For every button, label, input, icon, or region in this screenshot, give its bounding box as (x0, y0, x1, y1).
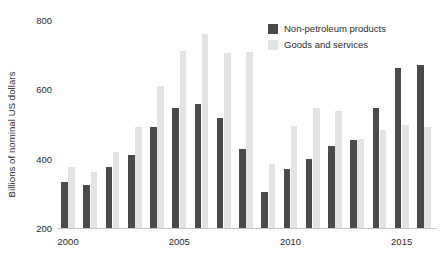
bar-2005-non-petroleum-products (172, 108, 179, 228)
bar-2014-goods-and-services (380, 130, 387, 228)
bar-2007-non-petroleum-products (217, 118, 224, 228)
bar-2000-goods-and-services (68, 167, 75, 228)
x-tick-label-2005: 2005 (169, 236, 190, 247)
x-tick-label-2010: 2010 (280, 236, 301, 247)
bar-2010-goods-and-services (291, 126, 298, 228)
legend-swatch-icon (268, 24, 278, 34)
bar-2009-non-petroleum-products (261, 192, 268, 228)
y-tick-label-200: 200 (22, 223, 52, 234)
legend-swatch-icon (268, 40, 278, 50)
x-axis-line (57, 228, 437, 229)
bar-2000-non-petroleum-products (61, 182, 68, 228)
x-tick-label-2000: 2000 (58, 236, 79, 247)
bar-2008-non-petroleum-products (239, 149, 246, 228)
bar-2011-goods-and-services (313, 108, 320, 228)
bar-2013-non-petroleum-products (350, 140, 357, 228)
bar-2004-goods-and-services (157, 86, 164, 228)
bar-2012-goods-and-services (335, 111, 342, 228)
bar-2005-goods-and-services (180, 51, 187, 228)
bar-2009-goods-and-services (269, 164, 276, 228)
y-axis-ticks: 200400600800 (14, 0, 52, 269)
bar-2010-non-petroleum-products (284, 169, 291, 228)
legend-label: Non-petroleum products (284, 23, 386, 34)
bar-2013-goods-and-services (357, 139, 364, 228)
bar-2014-non-petroleum-products (373, 108, 380, 228)
bar-2003-non-petroleum-products (128, 155, 135, 228)
bar-2002-goods-and-services (113, 152, 120, 228)
x-tick-label-2015: 2015 (391, 236, 412, 247)
bar-2002-non-petroleum-products (106, 167, 113, 228)
bar-2016-goods-and-services (424, 127, 431, 228)
y-tick-label-400: 400 (22, 153, 52, 164)
plot-area (57, 20, 435, 228)
bar-chart: Billions of nominal US dollars 200400600… (0, 0, 445, 269)
bar-2007-goods-and-services (224, 53, 231, 228)
bar-2011-non-petroleum-products (306, 159, 313, 228)
legend-item-goods-and-services: Goods and services (268, 38, 386, 51)
bar-2003-goods-and-services (135, 127, 142, 228)
y-tick-label-800: 800 (22, 15, 52, 26)
legend-item-non-petroleum-products: Non-petroleum products (268, 22, 386, 35)
chart-legend: Non-petroleum productsGoods and services (268, 22, 386, 51)
bar-2008-goods-and-services (246, 52, 253, 228)
bar-2006-non-petroleum-products (195, 104, 202, 228)
bar-2006-goods-and-services (202, 34, 209, 228)
y-tick-label-600: 600 (22, 84, 52, 95)
legend-label: Goods and services (284, 39, 368, 50)
bar-2012-non-petroleum-products (328, 146, 335, 228)
bar-2016-non-petroleum-products (417, 65, 424, 228)
bar-2001-non-petroleum-products (83, 185, 90, 228)
bar-2015-non-petroleum-products (395, 68, 402, 228)
bar-2004-non-petroleum-products (150, 127, 157, 228)
bar-2001-goods-and-services (91, 172, 98, 229)
bar-2015-goods-and-services (402, 125, 409, 228)
